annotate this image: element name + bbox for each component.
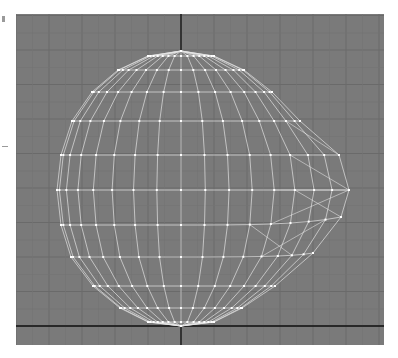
vertex (79, 120, 81, 122)
vertex (236, 307, 238, 309)
vertex (331, 189, 333, 191)
vertex (241, 120, 243, 122)
vertex (213, 321, 215, 323)
vertex (207, 321, 209, 323)
vertex (62, 224, 64, 226)
vertex (157, 307, 159, 309)
vertex (146, 285, 148, 287)
vertex (273, 189, 275, 191)
vertex (258, 120, 260, 122)
vertex (202, 256, 204, 258)
vertex (180, 307, 182, 309)
vertex (157, 154, 159, 156)
vertex (162, 321, 164, 323)
vertex (148, 55, 150, 57)
vertex (211, 321, 213, 323)
vertex (180, 256, 182, 258)
3d-viewport[interactable] (16, 14, 384, 345)
vertex (72, 256, 74, 258)
vertex (222, 256, 224, 258)
vertex (204, 154, 206, 156)
vertex (303, 253, 305, 255)
vertex (131, 91, 133, 93)
viewport-canvas[interactable] (16, 14, 384, 345)
vertex (269, 91, 271, 93)
vertex (290, 222, 292, 224)
vertex (113, 154, 115, 156)
vertex (197, 91, 199, 93)
vertex (270, 223, 272, 225)
vertex (156, 69, 158, 71)
vertex (69, 154, 71, 156)
vertex (203, 307, 205, 309)
vertex (131, 285, 133, 287)
vertex (214, 285, 216, 287)
vertex (129, 307, 131, 309)
vertex (203, 55, 205, 57)
vertex (150, 321, 152, 323)
vertex (193, 321, 195, 323)
vertex (251, 189, 253, 191)
latitude-edge (61, 217, 341, 225)
vertex (180, 321, 182, 323)
vertex (307, 154, 309, 156)
vertex (113, 224, 115, 226)
vertex (157, 55, 159, 57)
vertex (270, 154, 272, 156)
vertex (264, 285, 266, 287)
vertex (207, 55, 209, 57)
vertex (285, 120, 287, 122)
vertex (168, 307, 170, 309)
vertex (249, 154, 251, 156)
vertex (95, 154, 97, 156)
vertex (89, 120, 91, 122)
vertex (120, 307, 122, 309)
vertex (186, 55, 188, 57)
vertex (167, 55, 169, 57)
vertex (271, 91, 273, 93)
vertex (146, 91, 148, 93)
vertex (230, 91, 232, 93)
vertex (204, 69, 206, 71)
vertex (225, 69, 227, 71)
vertex (119, 120, 121, 122)
vertex (231, 307, 233, 309)
vertex (204, 189, 206, 191)
vertex (159, 120, 161, 122)
vertex (71, 120, 73, 122)
vertex (174, 55, 176, 57)
vertex (128, 69, 130, 71)
vertex (136, 69, 138, 71)
vertex (201, 120, 203, 122)
vertex (163, 91, 165, 93)
vertex (167, 321, 169, 323)
vertex (138, 256, 140, 258)
vertex (274, 285, 276, 287)
vertex (299, 120, 301, 122)
vertex (70, 256, 72, 258)
vertex (204, 224, 206, 226)
vertex (107, 285, 109, 287)
vertex (289, 154, 291, 156)
vertex (242, 256, 244, 258)
vertex (243, 69, 245, 71)
vertex (117, 91, 119, 93)
vertex (62, 154, 64, 156)
vertex (157, 224, 159, 226)
latitude-edge (71, 253, 313, 257)
vertex (69, 224, 71, 226)
vertex (180, 50, 182, 52)
vertex (338, 154, 340, 156)
vertex (118, 69, 120, 71)
vertex (215, 69, 217, 71)
vertex (255, 91, 257, 93)
vertex (222, 120, 224, 122)
vertex (255, 285, 257, 287)
vertex (102, 256, 104, 258)
vertex (89, 256, 91, 258)
vertex (106, 91, 108, 93)
vertex (198, 55, 200, 57)
vertex (348, 189, 350, 191)
vertex (137, 307, 139, 309)
deformed-edge (295, 190, 341, 217)
